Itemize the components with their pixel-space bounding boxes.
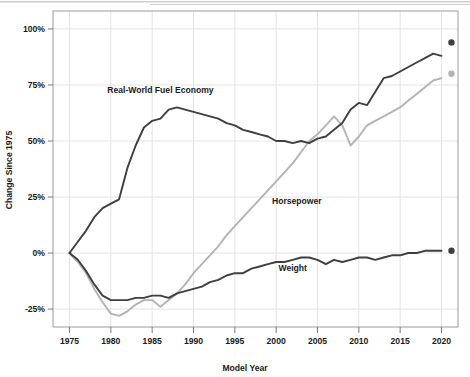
- x-tick-label: 2010: [349, 336, 368, 346]
- y-tick-label: 75%: [28, 80, 46, 90]
- series-label-1: Horsepower: [272, 196, 322, 206]
- y-axis-ticks: -25%0%25%50%75%100%: [23, 24, 53, 314]
- series-label-0: Real-World Fuel Economy: [107, 85, 214, 95]
- series-line: [70, 54, 442, 253]
- y-tick-label: 100%: [23, 24, 45, 34]
- y-tick-label: 0%: [33, 248, 46, 258]
- x-tick-label: 2000: [267, 336, 286, 346]
- x-tick-label: 2015: [391, 336, 410, 346]
- window-top-edge: [0, 1, 470, 3]
- x-axis-ticks: 1975198019851990199520002005201020152020: [60, 327, 451, 346]
- series-label-2: Weight: [278, 263, 307, 273]
- x-tick-label: 1995: [225, 336, 244, 346]
- x-tick-label: 1975: [60, 336, 79, 346]
- x-tick-label: 1990: [184, 336, 203, 346]
- y-tick-label: -25%: [25, 304, 45, 314]
- y-axis-title: Change Since 1975: [4, 131, 14, 210]
- series-line: [70, 251, 442, 300]
- series-labels: Real-World Fuel EconomyHorsepowerWeight: [107, 85, 322, 273]
- y-tick-label: 25%: [28, 192, 46, 202]
- series-endpoint-marker: [448, 71, 454, 77]
- series-endpoint-marker: [448, 39, 454, 45]
- x-tick-label: 2005: [308, 336, 327, 346]
- x-tick-label: 1980: [101, 336, 120, 346]
- plot-frame: [53, 11, 458, 327]
- series-endpoints: [448, 39, 454, 254]
- x-tick-label: 2020: [432, 336, 451, 346]
- series-endpoint-marker: [448, 248, 454, 254]
- x-tick-label: 1985: [143, 336, 162, 346]
- window-top-edge-secondary: [150, 4, 470, 5]
- y-tick-label: 50%: [28, 136, 46, 146]
- gridlines: [53, 11, 458, 327]
- chart-container: -25%0%25%50%75%100% 19751980198519901995…: [0, 0, 470, 377]
- line-chart: -25%0%25%50%75%100% 19751980198519901995…: [0, 0, 470, 377]
- x-axis-title: Model Year: [222, 363, 268, 373]
